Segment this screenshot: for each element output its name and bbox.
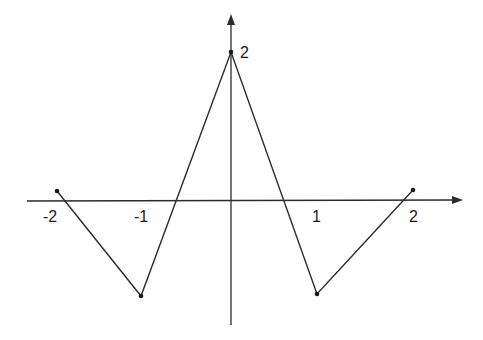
y-tick-label-2: 2 — [240, 45, 249, 61]
data-point-neg1 — [139, 294, 144, 299]
x-axis — [27, 200, 455, 201]
chart-canvas: -2 -1 1 2 2 — [0, 0, 483, 340]
data-point-1 — [315, 292, 320, 297]
data-point-0 — [229, 50, 234, 55]
x-axis-arrow-icon — [452, 196, 463, 204]
data-point-neg2 — [55, 189, 60, 194]
y-axis-arrow-icon — [227, 14, 235, 25]
data-point-2 — [411, 188, 416, 193]
function-polyline — [57, 52, 413, 296]
x-tick-label-1: 1 — [312, 209, 321, 225]
x-tick-label-neg1: -1 — [134, 209, 148, 225]
x-tick-label-neg2: -2 — [43, 209, 57, 225]
x-tick-label-2: 2 — [409, 209, 418, 225]
